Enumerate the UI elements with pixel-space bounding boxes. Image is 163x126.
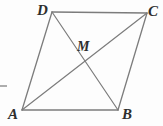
point-label-M: M <box>77 39 89 54</box>
edge-CB <box>118 13 147 110</box>
vertex-label-D: D <box>37 3 48 18</box>
vertex-label-B: B <box>122 107 132 122</box>
edge-AD <box>22 12 52 110</box>
figure-canvas <box>0 0 163 126</box>
geometry-figure: D C A B M <box>0 0 163 126</box>
diagonal-DB <box>52 12 118 110</box>
vertex-label-A: A <box>8 107 18 122</box>
edge-DC <box>52 12 147 13</box>
diagonal-AC <box>22 13 147 110</box>
vertex-label-C: C <box>148 4 158 19</box>
